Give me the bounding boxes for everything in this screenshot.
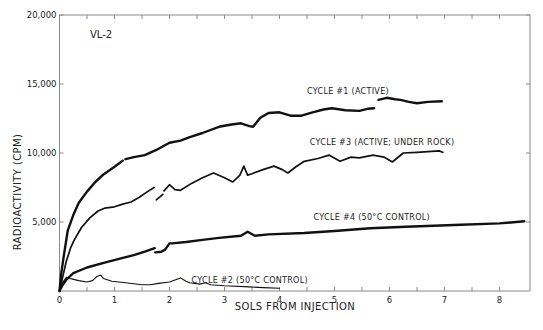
series-annotation: CYCLE #3 (ACTIVE; UNDER ROCK) <box>310 138 455 147</box>
x-tick-label: 8 <box>497 295 502 305</box>
radioactivity-chart: 012345678 5,00010,00015,00020,000 CYCLE … <box>0 0 543 330</box>
y-tick-label: 10,000 <box>27 148 57 158</box>
x-tick-label: 0 <box>57 295 62 305</box>
series-line-segment <box>156 194 163 200</box>
plot-frame <box>60 15 531 291</box>
series-line-segment <box>60 188 155 292</box>
panel-label: VL-2 <box>90 29 112 40</box>
series-line-segment <box>164 151 443 191</box>
y-tick-label: 5,000 <box>32 217 56 227</box>
x-tick-label: 2 <box>167 295 172 305</box>
series-layer <box>60 98 525 291</box>
series-1 <box>60 98 442 291</box>
x-tick-label: 1 <box>112 295 117 305</box>
x-tick-label: 6 <box>387 295 392 305</box>
series-line-segment <box>155 221 524 252</box>
series-annotation: CYCLE #2 (50°C CONTROL) <box>192 276 308 285</box>
x-axis-title: SOLS FROM INJECTION <box>235 301 355 312</box>
x-tick-label: 7 <box>442 295 447 305</box>
y-ticks: 5,00010,00015,00020,000 <box>27 10 530 227</box>
y-tick-label: 15,000 <box>27 79 57 89</box>
x-tick-label: 3 <box>222 295 227 305</box>
series-line-segment <box>379 98 442 104</box>
annotation-layer: CYCLE #1 (ACTIVE)CYCLE #3 (ACTIVE; UNDER… <box>192 87 455 285</box>
series-line-segment <box>126 108 375 159</box>
y-axis-title: RADIOACTIVITY (CPM) <box>12 134 23 251</box>
series-annotation: CYCLE #4 (50°C CONTROL) <box>314 213 430 222</box>
series-line-segment <box>60 161 123 291</box>
series-annotation: CYCLE #1 (ACTIVE) <box>307 87 389 96</box>
y-tick-label: 20,000 <box>27 10 57 20</box>
